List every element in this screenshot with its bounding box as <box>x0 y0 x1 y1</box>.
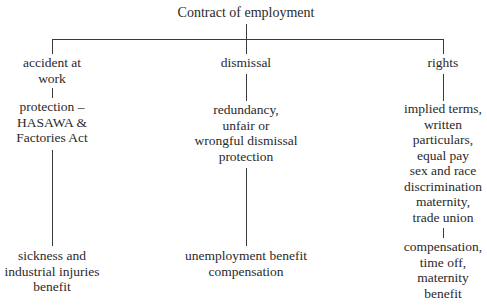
branch-1-label: accident at work <box>23 55 81 86</box>
branch-2-connector-a <box>246 74 247 101</box>
text-line: Factories Act <box>16 130 88 146</box>
text-line: maternity, <box>404 194 482 210</box>
text-line: accident at <box>23 55 81 71</box>
branch-2-level3: unemployment benefit compensation <box>185 248 307 279</box>
text-line: compensation <box>185 264 307 280</box>
text-line: implied terms, <box>404 101 482 117</box>
branch-bar <box>52 39 444 40</box>
text-line: HASAWA & <box>16 115 88 131</box>
branch-3-drop <box>443 39 444 54</box>
branch-2-connector-b <box>246 168 247 246</box>
text-line: rights <box>428 55 459 71</box>
text-line: work <box>23 71 81 87</box>
branch-3-level3: compensation, time off, maternity benefi… <box>404 239 482 301</box>
text-line: sex and race <box>404 163 482 179</box>
branch-3-label: rights <box>428 55 459 71</box>
branch-2-label: dismissal <box>221 55 271 71</box>
text-line: time off, <box>404 255 482 271</box>
text-line: equal pay <box>404 148 482 164</box>
text-line: benefit <box>404 286 482 302</box>
branch-3-connector-b <box>443 228 444 238</box>
text-line: protection <box>194 149 297 165</box>
text-line: trade union <box>404 210 482 226</box>
text-line: unfair or <box>194 118 297 134</box>
branch-1-connector-a <box>52 88 53 98</box>
text-line: sickness and <box>5 248 100 264</box>
text-line: unemployment benefit <box>185 248 307 264</box>
branch-1-connector-b <box>52 150 53 246</box>
text-line: wrongful dismissal <box>194 133 297 149</box>
text-line: compensation, <box>404 239 482 255</box>
branch-1-level3: sickness and industrial injuries benefit <box>5 248 100 295</box>
text-line: benefit <box>5 279 100 295</box>
text-line: redundancy, <box>194 102 297 118</box>
branch-3-connector-a <box>443 74 444 101</box>
text-line: particulars, <box>404 132 482 148</box>
text-line: industrial injuries <box>5 264 100 280</box>
text-line: written <box>404 117 482 133</box>
branch-1-level2: protection – HASAWA & Factories Act <box>16 99 88 146</box>
branch-3-level2: implied terms, written particulars, equa… <box>404 101 482 225</box>
text-line: maternity <box>404 270 482 286</box>
text-line: dismissal <box>221 55 271 71</box>
text-line: protection – <box>16 99 88 115</box>
branch-1-drop <box>52 39 53 54</box>
root-node: Contract of employment <box>178 5 315 21</box>
branch-2-level2: redundancy, unfair or wrongful dismissal… <box>194 102 297 164</box>
text-line: discrimination <box>404 179 482 195</box>
